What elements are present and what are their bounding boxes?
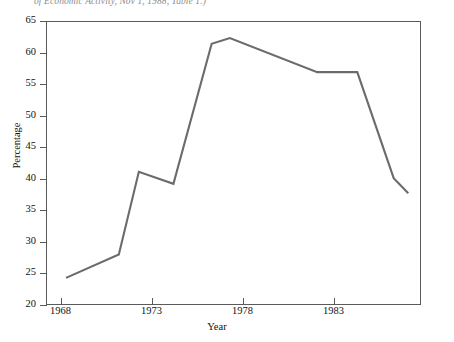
line-series-percentage bbox=[66, 38, 408, 278]
series-layer bbox=[0, 0, 454, 342]
figure-container: of Economic Activity, Nov 1, 1988, Table… bbox=[0, 0, 454, 342]
